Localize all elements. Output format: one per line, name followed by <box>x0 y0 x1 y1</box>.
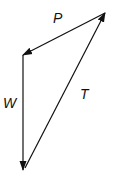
label-t: T <box>80 87 89 101</box>
vector-p-arrow <box>23 13 105 55</box>
vector-t-arrow <box>25 13 105 168</box>
label-p: P <box>53 11 62 25</box>
label-w: W <box>3 96 16 110</box>
vector-diagram <box>0 0 113 180</box>
